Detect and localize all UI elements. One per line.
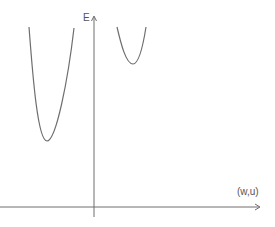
left-energy-curve — [29, 27, 74, 141]
y-axis-label: E — [83, 12, 90, 23]
x-axis-label: (w,u) — [237, 186, 259, 197]
right-energy-curve — [117, 27, 146, 64]
energy-diagram — [0, 0, 275, 227]
